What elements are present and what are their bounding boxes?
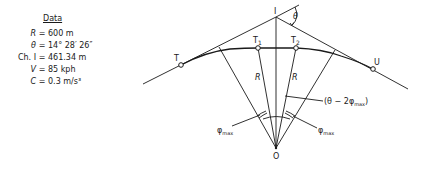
label-T1-sub: 1 xyxy=(258,39,262,46)
phi-left-sub: max xyxy=(222,130,233,136)
point-T1-marker xyxy=(256,46,261,51)
point-T-marker xyxy=(179,63,184,68)
center-angle-leader xyxy=(285,96,323,101)
radial-line-T1 xyxy=(258,48,276,148)
point-O-marker xyxy=(275,147,277,149)
label-T1: T1 xyxy=(252,36,262,46)
phi-right-leader xyxy=(293,116,317,128)
label-I: I xyxy=(274,7,276,16)
curve-path xyxy=(181,48,373,69)
label-U: U xyxy=(374,58,380,67)
label-phi-right: φmax xyxy=(318,126,334,136)
radial-line-T2 xyxy=(276,48,296,148)
label-center-angle: (θ − 2φmax) xyxy=(324,97,368,107)
label-R-left: R xyxy=(255,73,261,82)
label-R-right: R xyxy=(292,73,298,82)
phi-left-leader xyxy=(232,115,260,126)
label-O: O xyxy=(273,152,279,161)
phi-right-sub: max xyxy=(323,130,334,136)
center-angle-arc xyxy=(263,117,290,120)
curve-diagram: I θ T T1 T2 U O R R (θ − 2φmax) φmax φma… xyxy=(0,0,428,172)
center-angle-sub: max xyxy=(354,101,365,107)
label-T2-sub: 2 xyxy=(296,39,300,46)
point-T2-marker xyxy=(294,46,299,51)
label-theta: θ xyxy=(293,12,298,21)
label-T: T xyxy=(173,54,179,63)
center-angle-open: (θ − 2 xyxy=(324,97,349,106)
point-U-marker xyxy=(371,67,376,72)
phi-right-arc-outer xyxy=(286,111,295,116)
center-angle-close: ) xyxy=(365,97,368,106)
label-T2: T2 xyxy=(290,36,300,46)
label-phi-left: φmax xyxy=(217,126,233,136)
